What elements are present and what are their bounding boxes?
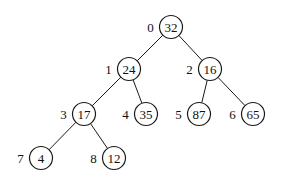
tree-node: 656 xyxy=(229,103,264,126)
node-index-label: 6 xyxy=(229,107,236,122)
node-index-label: 4 xyxy=(122,107,129,122)
node-value: 65 xyxy=(247,107,260,122)
heap-tree-diagram: 32024116217335487565647128 xyxy=(0,0,284,180)
node-value: 16 xyxy=(204,62,218,77)
tree-node: 162 xyxy=(186,58,221,81)
node-value: 35 xyxy=(140,107,153,122)
node-value: 4 xyxy=(38,151,45,166)
node-index-label: 5 xyxy=(175,107,182,122)
node-index-label: 2 xyxy=(186,62,193,77)
tree-edge xyxy=(90,124,107,149)
tree-edge xyxy=(49,122,76,150)
tree-edge xyxy=(179,35,202,60)
node-index-label: 3 xyxy=(60,107,67,122)
tree-edge xyxy=(202,80,208,103)
tree-node: 128 xyxy=(90,147,125,170)
tree-node: 875 xyxy=(175,103,210,126)
tree-node: 47 xyxy=(17,147,52,170)
tree-edge xyxy=(92,77,121,106)
tree-node: 354 xyxy=(122,103,157,126)
tree-edge xyxy=(137,35,163,61)
node-value: 17 xyxy=(78,107,92,122)
node-index-label: 8 xyxy=(90,151,97,166)
tree-edge xyxy=(133,80,142,103)
node-value: 24 xyxy=(123,62,137,77)
tree-edges xyxy=(49,35,245,150)
node-index-label: 1 xyxy=(105,62,112,77)
node-value: 87 xyxy=(193,107,207,122)
tree-node: 241 xyxy=(105,58,140,81)
tree-node: 320 xyxy=(147,16,182,39)
tree-nodes: 32024116217335487565647128 xyxy=(17,16,264,170)
node-index-label: 0 xyxy=(147,20,154,35)
node-value: 32 xyxy=(165,20,178,35)
tree-edge xyxy=(218,77,245,105)
tree-node: 173 xyxy=(60,103,95,126)
node-index-label: 7 xyxy=(17,151,24,166)
node-value: 12 xyxy=(108,151,121,166)
tree-svg: 32024116217335487565647128 xyxy=(0,0,284,180)
